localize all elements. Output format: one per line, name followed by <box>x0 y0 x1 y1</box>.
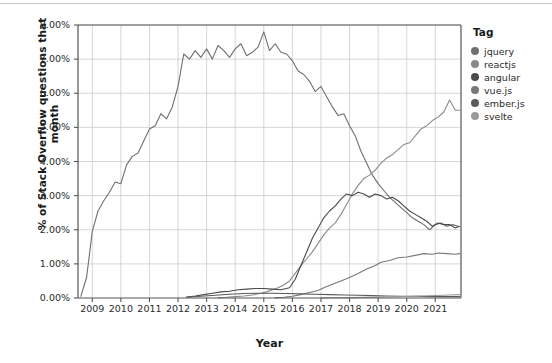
y-tick-label: 3.00% <box>24 190 70 201</box>
legend-item-emberjs[interactable]: ember.js <box>471 97 549 109</box>
series-line-jquery <box>81 32 458 296</box>
series-line-reactjs <box>218 100 460 298</box>
legend-item-svelte[interactable]: svelte <box>471 110 549 122</box>
legend-items: jqueryreactjsangularvue.jsember.jssvelte <box>471 45 549 122</box>
legend-item-label: svelte <box>484 111 513 122</box>
data-series <box>81 32 460 298</box>
y-tick-label: 0.00% <box>24 292 70 303</box>
y-tick-label: 4.00% <box>24 156 70 167</box>
legend-item-angular[interactable]: angular <box>471 71 549 83</box>
legend-item-label: ember.js <box>484 98 525 109</box>
legend-item-vuejs[interactable]: vue.js <box>471 84 549 96</box>
series-line-angular <box>187 192 460 297</box>
legend-swatch-icon <box>471 73 479 81</box>
legend-title: Tag <box>473 26 549 38</box>
legend-swatch-icon <box>471 112 479 120</box>
legend-item-jquery[interactable]: jquery <box>471 45 549 57</box>
legend-item-label: reactjs <box>484 59 516 70</box>
y-tick-label: 7.00% <box>24 53 70 64</box>
legend: Tag jqueryreactjsangularvue.jsember.jssv… <box>471 26 549 123</box>
legend-swatch-icon <box>471 47 479 55</box>
x-axis-title: Year <box>78 337 461 350</box>
y-tick-label: 1.00% <box>24 258 70 269</box>
y-tick-label: 8.00% <box>24 19 70 30</box>
legend-item-label: angular <box>484 72 520 83</box>
x-tick-label: 2021 <box>415 303 455 314</box>
legend-item-label: vue.js <box>484 85 512 96</box>
y-tick-label: 5.00% <box>24 121 70 132</box>
line-chart: % of Stack Overflow questions that month… <box>0 0 552 363</box>
legend-item-label: jquery <box>484 46 514 57</box>
legend-item-reactjs[interactable]: reactjs <box>471 58 549 70</box>
legend-swatch-icon <box>471 60 479 68</box>
y-tick-label: 6.00% <box>24 87 70 98</box>
legend-swatch-icon <box>471 86 479 94</box>
legend-swatch-icon <box>471 99 479 107</box>
y-tick-label: 2.00% <box>24 224 70 235</box>
